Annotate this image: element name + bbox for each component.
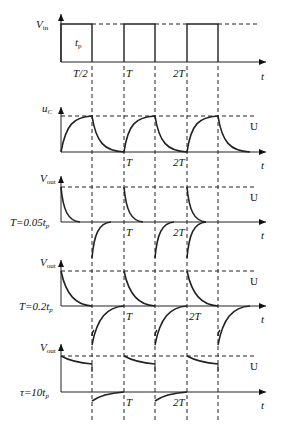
vin-ylabel: Vin: [36, 18, 49, 32]
tp-label: tp: [75, 36, 82, 50]
xlabel-t: t: [261, 159, 265, 171]
xlabel-t: t: [261, 313, 265, 325]
U-level: U: [250, 120, 258, 132]
vin-panel: [61, 14, 266, 62]
U-level: U: [250, 191, 258, 203]
waveform-diagram: Vin tp T/2 T 2T t uC U T 2T t Vout U T=0…: [0, 0, 283, 426]
xlabel-t: t: [261, 229, 265, 241]
side-label: τ=10tp: [20, 386, 49, 400]
tick-T2: T/2: [73, 67, 88, 79]
tick-T: T: [126, 310, 133, 322]
xlabel-t: t: [261, 70, 265, 82]
vout1-ylabel: Vout: [40, 172, 56, 186]
tick-2T: 2T: [173, 67, 186, 79]
labels: Vin tp T/2 T 2T t uC U T 2T t Vout U T=0…: [10, 18, 265, 411]
tick-T: T: [126, 156, 133, 168]
tick-T: T: [126, 67, 133, 79]
side-label: T=0.05tp: [10, 216, 50, 230]
U-level: U: [250, 360, 258, 372]
U-level: U: [250, 275, 258, 287]
tick-T: T: [126, 396, 133, 408]
vout2-ylabel: Vout: [40, 256, 56, 270]
vout3-ylabel: Vout: [40, 341, 56, 355]
tick-T: T: [126, 226, 133, 238]
tick-2T: 2T: [189, 310, 202, 322]
tick-2T: 2T: [173, 396, 186, 408]
xlabel-t: t: [261, 399, 265, 411]
tick-2T: 2T: [173, 156, 186, 168]
side-label: T=0.2tp: [19, 300, 53, 314]
uc-ylabel: uC: [42, 102, 53, 116]
tick-2T: 2T: [173, 226, 186, 238]
